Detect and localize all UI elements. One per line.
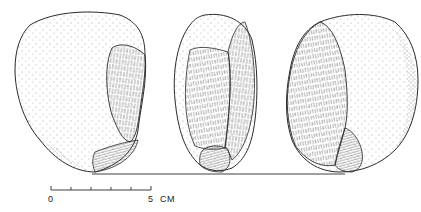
view-center	[174, 14, 257, 172]
scale-unit-label: CM	[160, 194, 175, 204]
scale-start-label: 0	[48, 194, 54, 204]
scale-bar	[51, 186, 151, 190]
view-right	[286, 15, 418, 173]
artifact-illustration	[0, 0, 421, 212]
scale-end-label: 5	[148, 194, 154, 204]
view-left	[15, 12, 146, 172]
